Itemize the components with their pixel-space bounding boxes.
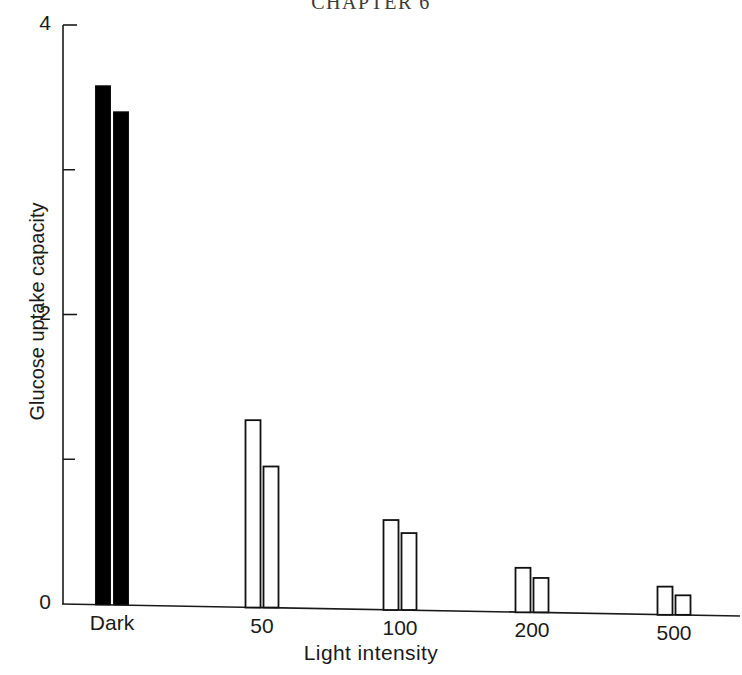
bar-200-1 [516,568,531,613]
bar-50-2 [264,466,279,607]
x-tick-label-50: 50 [202,614,322,638]
y-tick-label-0: 0 [17,590,51,614]
bar-dark-2 [114,112,129,605]
bar-500-1 [658,587,673,615]
x-tick-label-dark: Dark [52,611,172,635]
bar-100-2 [402,533,417,610]
bar-dark-1 [96,86,111,605]
bar-50-1 [246,420,261,607]
x-tick-label-200: 200 [472,618,592,642]
x-tick-label-100: 100 [340,616,460,640]
y-tick-label-2: 2 [17,301,51,325]
y-tick-label-4: 4 [17,11,51,35]
chart-plot-area [0,0,742,675]
chart-figure: Glucose uptake capacity Light intensity … [0,0,742,675]
x-tick-label-500: 500 [614,621,734,645]
bar-200-2 [534,578,549,612]
bar-500-2 [676,595,691,615]
bar-100-1 [384,520,399,610]
